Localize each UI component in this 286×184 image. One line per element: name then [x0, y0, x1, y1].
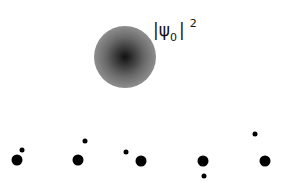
psi-subscript: 0	[170, 31, 177, 44]
psi-symbol: ψ	[159, 20, 170, 40]
small-dot	[202, 174, 207, 179]
large-dot	[73, 155, 84, 166]
large-dot	[260, 156, 271, 167]
large-dot	[136, 156, 147, 167]
diagram-canvas: |ψ0|2	[0, 0, 286, 184]
small-dot	[124, 150, 129, 155]
psi-superscript: 2	[190, 17, 197, 30]
small-dot	[83, 139, 88, 144]
small-dot	[253, 132, 258, 137]
small-dot	[20, 148, 25, 153]
abs-bar-right: |	[179, 20, 185, 40]
large-dot	[12, 155, 23, 166]
psi-squared-label: |ψ0|2	[153, 18, 197, 43]
large-dot	[198, 156, 209, 167]
gaussian-probability-density	[94, 26, 156, 88]
